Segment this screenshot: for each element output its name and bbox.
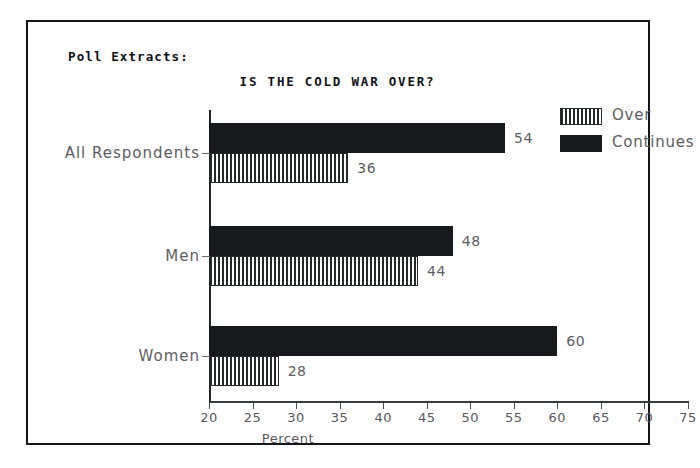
bar-continues [209,226,453,256]
x-axis-tick [209,403,210,409]
x-axis-tick [470,403,471,409]
x-axis-tick-label: 25 [233,410,273,425]
x-axis-tick-label: 40 [363,410,403,425]
x-axis-tick [427,403,428,409]
bar-over [209,153,348,183]
x-axis-tick-label: 20 [189,410,229,425]
x-axis-tick [557,403,558,409]
bar-value-label: 48 [462,233,481,249]
x-axis-tick-label: 50 [450,410,490,425]
category-label: Men [38,247,200,265]
x-axis-label: Percent [0,431,700,446]
bar-continues [209,326,557,356]
bar-value-label: 60 [566,333,585,349]
x-axis-tick-label: 70 [624,410,664,425]
x-axis-tick-label: 75 [668,410,700,425]
x-axis-tick [514,403,515,409]
category-tick [202,356,210,357]
x-axis-tick [296,403,297,409]
x-axis-line [209,401,689,403]
category-label: Women [38,347,200,365]
category-tick [202,153,210,154]
x-axis-tick [253,403,254,409]
x-axis-tick [340,403,341,409]
x-axis-tick-label: 55 [494,410,534,425]
x-axis-tick [688,403,689,409]
legend-swatch [560,135,602,152]
panel-corner-label: Poll Extracts: [68,49,189,64]
x-axis-tick [644,403,645,409]
x-axis-tick-label: 35 [320,410,360,425]
x-axis-tick [601,403,602,409]
bar-over [209,256,418,286]
category-tick [202,256,210,257]
legend-label: Over [612,106,651,124]
bar-value-label: 36 [357,160,376,176]
bar-continues [209,123,505,153]
x-axis-tick-label: 65 [581,410,621,425]
bar-value-label: 28 [288,363,307,379]
x-axis-tick-label: 60 [537,410,577,425]
x-axis-tick [383,403,384,409]
legend-label: Continues [612,133,694,151]
category-label: All Respondents [38,144,200,162]
bar-over [209,356,279,386]
x-axis-tick-label: 30 [276,410,316,425]
x-axis-tick-label: 45 [407,410,447,425]
chart-title: IS THE COLD WAR OVER? [0,74,677,89]
bar-value-label: 44 [427,263,446,279]
bar-value-label: 54 [514,130,533,146]
legend-swatch [560,108,602,125]
poll-extracts-panel: Poll Extracts: IS THE COLD WAR OVER? 202… [26,20,650,445]
